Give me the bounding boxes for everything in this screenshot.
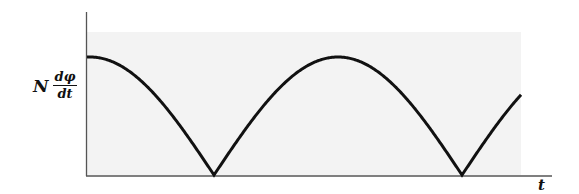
y-label-prefix: N <box>33 76 49 96</box>
y-axis-label: N dφ dt <box>33 70 77 101</box>
plot-area <box>0 0 579 194</box>
y-label-denominator: dt <box>57 86 72 101</box>
x-axis-label: t <box>538 176 545 194</box>
y-label-fraction: dφ dt <box>53 70 78 101</box>
y-label-numerator: dφ <box>53 70 78 86</box>
shaded-region <box>87 32 521 175</box>
